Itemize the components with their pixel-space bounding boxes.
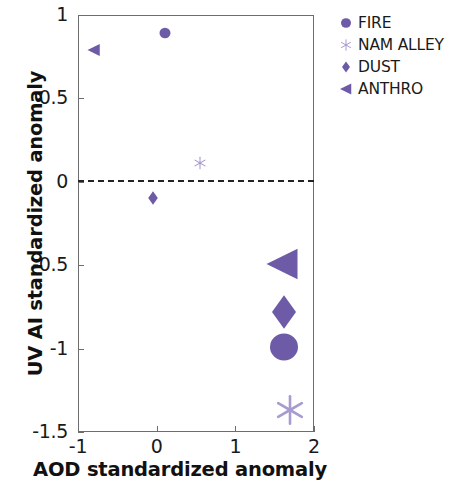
y-axis-tick bbox=[78, 432, 84, 433]
x-axis-tick-label: -1 bbox=[69, 437, 87, 456]
x-axis-tick bbox=[157, 426, 158, 432]
x-axis-tick bbox=[314, 426, 315, 432]
legend-label: ANTHRO bbox=[358, 80, 423, 98]
scatter-chart-figure: 10.50-0.5-1-1.5-1012 AOD standardized an… bbox=[0, 0, 451, 483]
y-axis-tick bbox=[78, 349, 84, 350]
data-point-nam-alley bbox=[275, 395, 305, 425]
legend-label: DUST bbox=[358, 58, 400, 76]
data-point-anthro bbox=[85, 42, 102, 59]
data-point-fire bbox=[268, 331, 300, 363]
x-axis-label: AOD standardized anomaly bbox=[0, 458, 360, 481]
x-axis-tick-label: 0 bbox=[151, 437, 163, 456]
chart-legend: FIRENAM ALLEYDUSTANTHRO bbox=[337, 12, 451, 100]
data-point-fire bbox=[157, 26, 172, 41]
legend-item-fire[interactable]: FIRE bbox=[337, 12, 451, 34]
legend-marker-circle-icon bbox=[337, 13, 354, 33]
legend-item-nam-alley[interactable]: NAM ALLEY bbox=[337, 34, 451, 56]
y-axis-tick-label: -1 bbox=[50, 339, 68, 358]
zero-reference-line bbox=[78, 180, 314, 182]
y-axis-tick bbox=[78, 98, 84, 99]
y-axis-tick-label: -1.5 bbox=[32, 422, 68, 441]
y-axis-tick bbox=[78, 265, 84, 266]
x-axis-tick-label: 1 bbox=[229, 437, 241, 456]
legend-marker-diamond-icon bbox=[337, 57, 354, 77]
legend-marker-star-icon bbox=[337, 35, 354, 55]
legend-marker-triangle-left-icon bbox=[337, 79, 354, 99]
legend-item-anthro[interactable]: ANTHRO bbox=[337, 78, 451, 100]
y-axis-tick bbox=[78, 15, 84, 16]
y-axis-tick bbox=[78, 182, 84, 183]
y-axis-label: UV AI standardized anomaly bbox=[24, 24, 47, 424]
legend-item-dust[interactable]: DUST bbox=[337, 56, 451, 78]
y-axis-tick-label: 0 bbox=[56, 172, 68, 191]
data-point-dust bbox=[267, 295, 301, 329]
x-axis-tick bbox=[78, 426, 79, 432]
legend-label: FIRE bbox=[358, 14, 391, 32]
x-axis-tick bbox=[235, 426, 236, 432]
x-axis-tick-label: 2 bbox=[308, 437, 320, 456]
data-point-dust bbox=[145, 190, 161, 206]
y-axis-tick-label: 1 bbox=[56, 5, 68, 24]
plot-area bbox=[78, 15, 314, 432]
data-point-anthro bbox=[264, 245, 301, 282]
data-point-nam-alley bbox=[192, 156, 207, 171]
legend-label: NAM ALLEY bbox=[358, 36, 444, 54]
